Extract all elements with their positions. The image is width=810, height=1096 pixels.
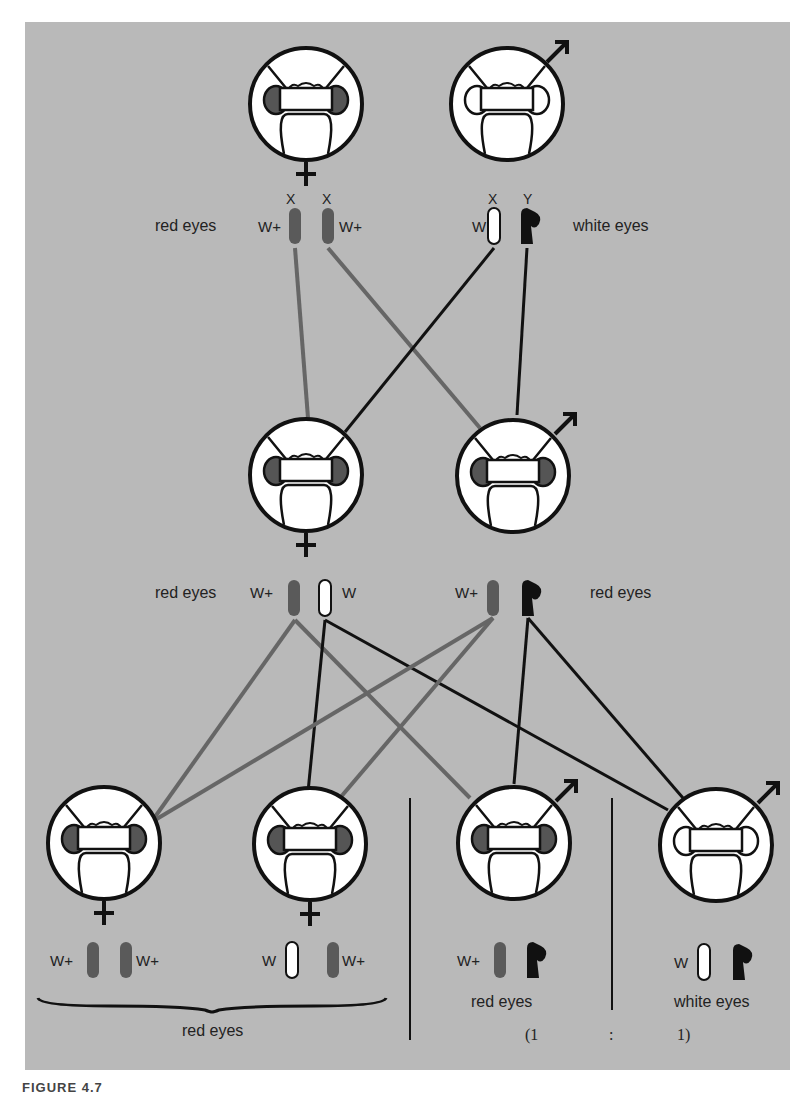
- parent-female-allele-2: W+: [339, 219, 362, 234]
- f2-offspring-1-allele-2: W+: [136, 953, 159, 968]
- parent-female-phenotype: red eyes: [155, 218, 216, 234]
- f2-female-fly-2: [254, 788, 366, 926]
- f1-female-allele-1: W+: [250, 585, 273, 600]
- f2-female-group-phenotype: red eyes: [182, 1023, 243, 1039]
- f1-female-fly: [250, 419, 362, 557]
- f2-male-fly-red: [458, 781, 576, 899]
- f2-offspring-3-allele: W+: [457, 953, 480, 968]
- f2-offspring-1-allele-1: W+: [50, 953, 73, 968]
- f2-offspring-3-phenotype: red eyes: [471, 994, 532, 1010]
- f1-chromosomes: [288, 580, 541, 616]
- brace-female-group: [38, 998, 386, 1012]
- f1-male-phenotype: red eyes: [590, 585, 651, 601]
- parent-male-allele-x: W: [472, 219, 486, 234]
- ratio-separator: :: [609, 1027, 613, 1043]
- f2-chromosomes: [87, 942, 752, 980]
- parent-female-allele-1: W+: [258, 219, 281, 234]
- ratio-close: 1): [677, 1027, 690, 1043]
- cross-lines-f1-to-f2: [140, 618, 683, 838]
- parent-chromosomes: [289, 208, 540, 244]
- chrom-label-x3: X: [488, 192, 497, 206]
- parent-male-phenotype: white eyes: [573, 218, 649, 234]
- f1-male-allele: W+: [455, 585, 478, 600]
- f2-offspring-4-allele: W: [674, 955, 688, 970]
- parent-female-fly: [250, 48, 362, 186]
- f1-female-allele-2: W: [342, 585, 356, 600]
- f1-female-phenotype: red eyes: [155, 585, 216, 601]
- ratio-open: (1: [525, 1027, 538, 1043]
- chrom-label-x2: X: [322, 192, 331, 206]
- chrom-label-y: Y: [523, 192, 532, 206]
- figure-caption: FIGURE 4.7: [22, 1080, 103, 1095]
- f1-male-fly: [457, 414, 575, 532]
- f2-male-fly-white: [660, 783, 778, 901]
- parent-male-fly: [451, 42, 567, 160]
- f2-offspring-2-allele-1: W: [262, 953, 276, 968]
- f2-offspring-2-allele-2: W+: [342, 953, 365, 968]
- f2-offspring-4-phenotype: white eyes: [674, 994, 750, 1010]
- f2-female-fly-1: [48, 787, 160, 925]
- inheritance-diagram: [0, 0, 810, 1096]
- chrom-label-x1: X: [286, 192, 295, 206]
- cross-lines-p-to-f1: [295, 248, 527, 432]
